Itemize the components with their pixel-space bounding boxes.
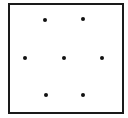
dot-bottom-left	[44, 93, 48, 97]
dot-middle-left	[23, 56, 27, 60]
dot-bottom-right	[81, 93, 85, 97]
dot-top-right	[81, 17, 85, 21]
dot-top-left	[43, 18, 47, 22]
dot-middle-right	[100, 56, 104, 60]
dot-center	[62, 56, 66, 60]
